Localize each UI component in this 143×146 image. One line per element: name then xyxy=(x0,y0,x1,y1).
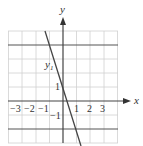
x-tick-1: 1 xyxy=(74,103,79,114)
y-axis-label: y xyxy=(59,3,65,15)
graph: y x −3 −2 −1 1 2 3 1 −1 y1 xyxy=(0,0,143,146)
x-tick-2: 2 xyxy=(87,103,92,114)
y-tick-neg1: −1 xyxy=(50,110,61,121)
line-y1-subscript: 1 xyxy=(50,64,54,72)
y-axis-arrow-icon xyxy=(60,17,66,25)
x-tick-neg1: −1 xyxy=(38,103,49,114)
x-axis-label: x xyxy=(133,94,139,106)
y-tick-1: 1 xyxy=(55,81,60,92)
line-y1-label: y1 xyxy=(44,58,53,72)
x-tick-neg3: −3 xyxy=(10,103,21,114)
x-axis-arrow-icon xyxy=(123,98,131,104)
x-tick-neg2: −2 xyxy=(24,103,35,114)
x-tick-3: 3 xyxy=(100,103,105,114)
